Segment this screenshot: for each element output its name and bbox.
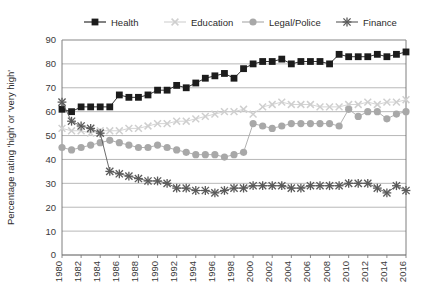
x-tick-label-1980: 1980 [53,261,64,282]
marker-finance-2010 [344,179,353,188]
marker-finance-1993 [182,184,191,193]
legend-label-3: Finance [363,17,397,28]
marker-finance-1983 [86,124,95,133]
marker-finance-2015 [392,181,401,190]
marker-legal-police-1996 [211,151,218,158]
marker-health-2006 [307,58,314,65]
marker-health-2007 [317,58,324,65]
marker-health-1982 [78,103,85,110]
marker-education-2012 [364,99,371,106]
marker-education-2002 [269,101,276,108]
marker-legal-police-1995 [202,151,209,158]
marker-health-1995 [202,75,209,82]
marker-health-2010 [345,53,352,60]
y-tick-label-40: 40 [45,154,56,165]
marker-health-1999 [240,65,247,72]
y-tick-label-0: 0 [51,249,56,260]
marker-legal-police-2016 [402,108,409,115]
y-tick-label-60: 60 [45,106,56,117]
marker-finance-1992 [172,184,181,193]
marker-health-2002 [269,58,276,65]
marker-legal-police-1998 [230,151,237,158]
legend-marker-circle [249,18,256,25]
marker-finance-2003 [277,181,286,190]
marker-legal-police-1987 [125,142,132,149]
marker-legal-police-1990 [154,142,161,149]
marker-finance-1991 [163,179,172,188]
series-line-finance [62,102,406,193]
y-tick-label-90: 90 [45,34,56,45]
marker-health-2014 [383,53,390,60]
marker-finance-2000 [249,181,258,190]
series-legal-police [58,106,409,161]
x-tick-label-2016: 2016 [397,261,408,282]
y-tick-label-20: 20 [45,202,56,213]
marker-finance-2001 [258,181,267,190]
marker-legal-police-2014 [383,115,390,122]
marker-education-1989 [145,123,152,130]
marker-health-2008 [326,60,333,67]
marker-finance-2006 [306,181,315,190]
x-tick-label-1992: 1992 [168,261,179,282]
marker-legal-police-1994 [192,151,199,158]
marker-health-1991 [164,87,171,94]
x-tick-label-1994: 1994 [187,261,198,282]
legend-label-2: Legal/Police [269,17,321,28]
marker-health-1994 [192,80,199,87]
marker-education-2001 [259,103,266,110]
legend-marker-square [92,19,99,26]
marker-finance-1999 [239,184,248,193]
x-axis-tick-labels: 1980198219841986198819901992199419961998… [53,261,408,282]
legend-item-finance[interactable]: Finance [336,17,397,28]
marker-health-1989 [145,92,152,99]
legend-item-legal-police[interactable]: Legal/Police [242,17,321,28]
marker-legal-police-2000 [250,120,257,127]
marker-legal-police-1985 [106,137,113,144]
marker-education-2013 [374,101,381,108]
marker-health-1997 [221,70,228,77]
marker-education-1994 [192,115,199,122]
marker-legal-police-2010 [345,106,352,113]
x-tick-label-1998: 1998 [225,261,236,282]
marker-health-2005 [297,58,304,65]
x-tick-label-2014: 2014 [378,261,389,282]
legend-item-health[interactable]: Health [84,17,138,28]
x-tick-label-1988: 1988 [129,261,140,282]
marker-finance-2012 [363,179,372,188]
legend-marker-star [343,18,352,27]
marker-finance-1981 [67,117,76,126]
marker-health-1987 [125,94,132,101]
marker-health-2013 [374,51,381,58]
marker-legal-police-1999 [240,149,247,156]
marker-health-2003 [278,56,285,63]
marker-finance-2007 [316,181,325,190]
series-line-education [62,100,406,133]
marker-health-1984 [97,103,104,110]
marker-legal-police-1988 [135,144,142,151]
marker-health-1988 [135,94,142,101]
x-tick-label-1986: 1986 [110,261,121,282]
marker-health-1993 [183,84,190,91]
marker-finance-2002 [268,181,277,190]
marker-health-2000 [250,60,257,67]
marker-legal-police-2015 [393,110,400,117]
marker-health-1990 [154,87,161,94]
marker-legal-police-1989 [144,144,151,151]
legend-label-0: Health [111,17,138,28]
marker-legal-police-2009 [336,122,343,129]
marker-health-1998 [231,75,238,82]
marker-finance-1984 [96,129,105,138]
marker-finance-1985 [105,167,114,176]
marker-finance-1982 [77,122,86,131]
marker-finance-1996 [210,188,219,197]
marker-health-1986 [116,92,123,99]
legend-label-1: Education [191,17,233,28]
axes-group [62,40,406,258]
series-line-health [62,52,406,112]
y-tick-label-10: 10 [45,226,56,237]
marker-education-1995 [202,113,209,120]
marker-health-1996 [211,72,218,79]
marker-legal-police-2007 [316,120,323,127]
legend-item-education[interactable]: Education [164,17,233,28]
gridlines-group [62,40,406,255]
